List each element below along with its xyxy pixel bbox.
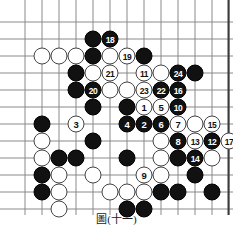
go-stone-white[interactable] — [34, 133, 51, 150]
go-stone-white-move-5[interactable]: 5 — [153, 99, 170, 116]
go-stone-white[interactable] — [51, 48, 68, 65]
go-stone-black-move-24[interactable]: 24 — [170, 65, 187, 82]
go-stone-white-move-1[interactable]: 1 — [136, 99, 153, 116]
go-stone-black[interactable] — [170, 150, 187, 167]
go-stone-black[interactable] — [68, 150, 85, 167]
go-stone-white[interactable] — [102, 82, 119, 99]
go-stone-black[interactable] — [85, 99, 102, 116]
go-stone-black[interactable] — [85, 48, 102, 65]
go-stone-white[interactable] — [187, 116, 204, 133]
go-stone-black-move-14[interactable]: 14 — [187, 150, 204, 167]
go-stone-white-move-9[interactable]: 9 — [136, 167, 153, 184]
go-stone-white[interactable] — [51, 184, 68, 201]
go-stone-black[interactable] — [187, 65, 204, 82]
go-stone-white[interactable] — [153, 65, 170, 82]
go-stone-white[interactable] — [68, 48, 85, 65]
go-stone-black[interactable] — [153, 184, 170, 201]
go-stone-black[interactable] — [119, 150, 136, 167]
go-stone-white[interactable] — [51, 201, 68, 218]
go-stone-black[interactable] — [136, 48, 153, 65]
go-stone-white-move-17[interactable]: 17 — [221, 133, 234, 150]
go-stone-black-move-20[interactable]: 20 — [85, 82, 102, 99]
go-stone-black[interactable] — [119, 99, 136, 116]
go-stone-black[interactable] — [204, 184, 221, 201]
go-stone-white[interactable] — [85, 167, 102, 184]
go-diagram-figure: 181921112420232216151034267158131217149 … — [0, 0, 233, 225]
go-stone-black[interactable] — [34, 184, 51, 201]
go-stone-white[interactable] — [153, 133, 170, 150]
go-stone-black-move-10[interactable]: 10 — [170, 99, 187, 116]
go-stone-black-move-16[interactable]: 16 — [170, 82, 187, 99]
go-stone-black-move-4[interactable]: 4 — [119, 116, 136, 133]
go-stone-black[interactable] — [187, 167, 204, 184]
go-board[interactable]: 181921112420232216151034267158131217149 — [0, 0, 233, 215]
go-stone-black-move-6[interactable]: 6 — [153, 116, 170, 133]
go-stone-white[interactable] — [34, 150, 51, 167]
go-stone-black[interactable] — [85, 133, 102, 150]
go-stone-black-move-8[interactable]: 8 — [170, 133, 187, 150]
go-stone-black[interactable] — [51, 150, 68, 167]
go-stone-white[interactable] — [51, 167, 68, 184]
go-stone-black[interactable] — [119, 201, 136, 218]
go-stone-white[interactable] — [34, 48, 51, 65]
go-stone-black-move-2[interactable]: 2 — [136, 116, 153, 133]
figure-caption: 圖(十一) — [0, 213, 233, 225]
go-stone-white-move-13[interactable]: 13 — [187, 133, 204, 150]
go-stone-black-move-22[interactable]: 22 — [153, 82, 170, 99]
go-stone-black[interactable] — [34, 167, 51, 184]
go-stone-black[interactable] — [68, 65, 85, 82]
go-stone-white[interactable] — [119, 82, 136, 99]
go-stone-white-move-7[interactable]: 7 — [170, 116, 187, 133]
go-stone-white-move-3[interactable]: 3 — [68, 116, 85, 133]
go-stone-white[interactable] — [136, 184, 153, 201]
go-stone-black[interactable] — [85, 31, 102, 48]
go-stone-white[interactable] — [153, 167, 170, 184]
go-stone-white[interactable] — [119, 184, 136, 201]
go-stone-white-move-21[interactable]: 21 — [102, 65, 119, 82]
go-stone-white[interactable] — [153, 150, 170, 167]
go-stone-black[interactable] — [170, 184, 187, 201]
go-stone-white[interactable] — [204, 150, 221, 167]
go-stone-white-move-23[interactable]: 23 — [136, 82, 153, 99]
go-stone-white-move-15[interactable]: 15 — [204, 116, 221, 133]
go-stone-white[interactable] — [85, 65, 102, 82]
go-stone-white[interactable] — [102, 184, 119, 201]
go-stone-black[interactable] — [68, 82, 85, 99]
go-stone-black[interactable] — [34, 116, 51, 133]
go-stone-white-move-11[interactable]: 11 — [136, 65, 153, 82]
go-stone-black-move-18[interactable]: 18 — [102, 31, 119, 48]
go-stone-black[interactable] — [136, 201, 153, 218]
go-stone-black-move-12[interactable]: 12 — [204, 133, 221, 150]
go-stone-white[interactable] — [102, 48, 119, 65]
go-stone-white-move-19[interactable]: 19 — [119, 48, 136, 65]
